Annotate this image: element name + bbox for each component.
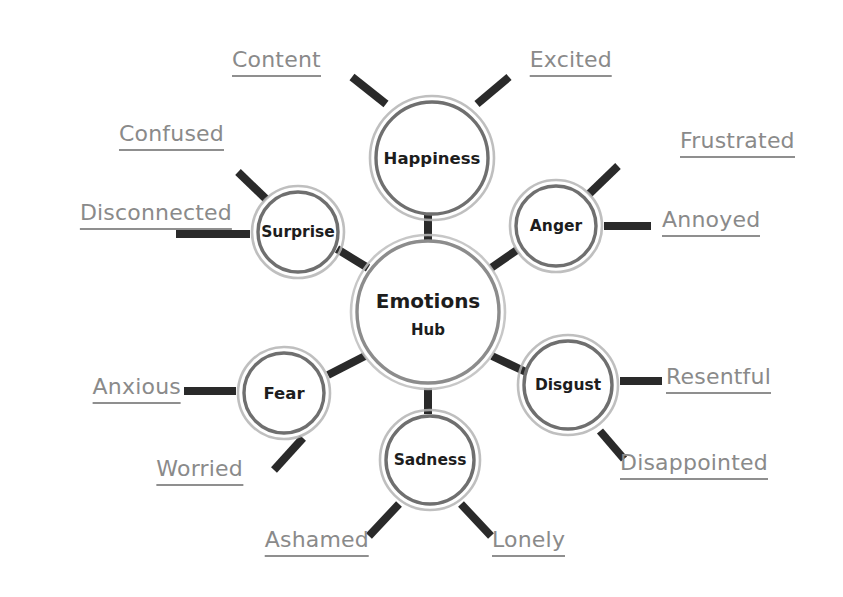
leaf-connector-happiness-0	[352, 77, 386, 104]
leaf-connector-disgust-1	[600, 431, 624, 459]
leaf-connector-sadness-0	[369, 504, 399, 536]
diagram-canvas	[0, 0, 843, 597]
hub-spoke-fear	[328, 356, 365, 375]
leaf-connector-surprise-0	[238, 172, 266, 199]
leaf-connector-fear-1	[274, 438, 303, 470]
node-disgust-ring-inner	[524, 341, 612, 429]
leaf-connector-happiness-1	[477, 77, 509, 104]
node-surprise-ring-outer	[252, 186, 344, 278]
node-anger-ring-inner	[516, 186, 596, 266]
node-fear-ring-inner	[244, 353, 324, 433]
node-anger-ring-outer	[510, 180, 602, 272]
hub-spoke-surprise	[337, 249, 368, 268]
node-sadness-ring-inner	[386, 416, 474, 504]
leaf-connector-anger-0	[589, 166, 618, 194]
node-sadness-ring-outer	[380, 410, 480, 510]
hub-spoke-anger	[491, 250, 517, 268]
node-disgust-ring-outer	[518, 335, 618, 435]
node-happiness-ring-outer	[370, 96, 494, 220]
emotions-mind-map: EmotionsHubHappinessAngerSurpriseFearSad…	[0, 0, 843, 597]
node-fear-ring-outer	[238, 347, 330, 439]
node-happiness-ring-inner	[376, 102, 488, 214]
node-surprise-ring-inner	[258, 192, 338, 272]
leaf-connector-sadness-1	[461, 504, 491, 536]
